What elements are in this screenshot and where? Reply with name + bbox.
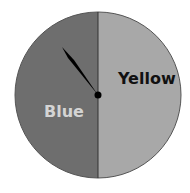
section-label-blue: Blue: [44, 102, 84, 121]
needle-pivot: [95, 92, 102, 99]
spinner-diagram: Yellow Blue: [0, 0, 190, 193]
section-label-yellow: Yellow: [117, 69, 176, 88]
